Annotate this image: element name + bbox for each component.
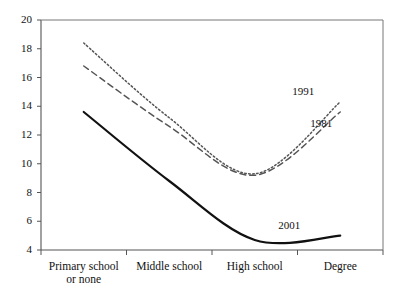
x-axis-category-label: Degree — [285, 260, 395, 273]
x-axis-category-label-line: or none — [29, 273, 139, 286]
y-axis-tick-label: 12 — [6, 129, 32, 140]
line-chart: 468101214161820 Primary schoolor noneMid… — [0, 0, 408, 299]
x-axis-ticks — [41, 250, 383, 255]
y-axis-tick-label: 20 — [6, 14, 32, 25]
y-axis-tick-label: 18 — [6, 43, 32, 54]
y-axis-tick-label: 8 — [6, 187, 32, 198]
y-axis-tick-label: 14 — [6, 100, 32, 111]
series-line-1991 — [84, 43, 341, 174]
x-axis-category-label-line: Degree — [285, 260, 395, 273]
series-label-1991: 1991 — [292, 86, 314, 97]
series-label-1981: 1981 — [310, 118, 332, 129]
series-label-2001: 2001 — [278, 220, 300, 231]
y-axis-ticks — [37, 20, 41, 250]
y-axis-tick-label: 6 — [6, 215, 32, 226]
data-series-group — [84, 43, 341, 243]
chart-canvas — [0, 0, 408, 299]
y-axis-tick-label: 10 — [6, 158, 32, 169]
series-line-2001 — [84, 112, 341, 243]
series-line-1981 — [84, 66, 341, 175]
y-axis-tick-label: 4 — [6, 244, 32, 255]
y-axis-tick-label: 16 — [6, 72, 32, 83]
